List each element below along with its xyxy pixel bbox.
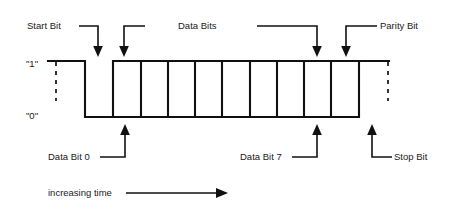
- leader-line-data-bits-left: [124, 26, 145, 48]
- arrowhead-down-parity-bit: [341, 46, 351, 57]
- arrowhead-down-data-bits-left: [119, 46, 129, 57]
- leader-line-parity-bit: [346, 26, 377, 48]
- uart-timing-diagram: Start Bit Data Bits Parity Bit "1" "0" D…: [0, 0, 460, 213]
- arrowhead-down-data-bits-right: [312, 46, 322, 57]
- arrowhead-down-start-bit: [93, 46, 103, 57]
- level-label-high: "1": [26, 58, 38, 69]
- leader-line-data-bits-right: [257, 26, 317, 48]
- arrowhead-up-data-bit-0: [120, 124, 130, 135]
- callout-label-data-bit-0: Data Bit 0: [48, 151, 90, 162]
- arrowhead-up-stop-bit: [367, 124, 377, 135]
- leader-line-stop-bit: [372, 135, 392, 157]
- callout-label-stop-bit: Stop Bit: [394, 151, 428, 162]
- callout-label-start-bit: Start Bit: [27, 20, 61, 31]
- arrowhead-right-time-axis: [216, 188, 228, 198]
- callout-label-data-bit-7: Data Bit 7: [240, 151, 282, 162]
- timing-diagram-canvas: Start Bit Data Bits Parity Bit "1" "0" D…: [0, 0, 460, 213]
- level-label-low: "0": [26, 110, 38, 121]
- callout-label-parity-bit: Parity Bit: [380, 20, 418, 31]
- leader-line-data-bit-0: [100, 135, 125, 157]
- callout-label-data-bits: Data Bits: [178, 20, 217, 31]
- leader-line-start-bit: [79, 26, 98, 48]
- waveform-trace: [48, 61, 359, 117]
- leader-line-data-bit-7: [292, 135, 317, 157]
- axis-label-increasing-time: increasing time: [48, 187, 112, 198]
- arrowhead-up-data-bit-7: [312, 124, 322, 135]
